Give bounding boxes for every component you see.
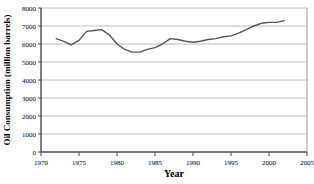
gridlines xyxy=(41,8,307,134)
y-tick-label: 0 xyxy=(33,149,37,157)
x-tick-label: 1990 xyxy=(186,159,201,167)
plot-area: 010002000300040005000600070008000 197019… xyxy=(0,0,314,184)
y-tick-label: 4000 xyxy=(22,77,37,85)
y-tick-label: 5000 xyxy=(22,59,37,67)
x-tick-label: 2000 xyxy=(262,159,277,167)
data-series-line xyxy=(56,21,284,52)
x-tick-label: 2005 xyxy=(300,159,314,167)
x-tick-label: 1980 xyxy=(110,159,125,167)
y-tick-label: 2000 xyxy=(22,113,37,121)
y-tick-label: 7000 xyxy=(22,23,37,31)
x-axis-ticks: 19701975198019851990199520002005 xyxy=(34,152,314,167)
x-tick-label: 1985 xyxy=(148,159,163,167)
y-tick-label: 6000 xyxy=(22,41,37,49)
y-tick-label: 1000 xyxy=(22,131,37,139)
y-axis-ticks: 010002000300040005000600070008000 xyxy=(22,5,41,157)
x-axis-title: Year xyxy=(41,168,307,179)
x-tick-label: 1995 xyxy=(224,159,239,167)
x-tick-label: 1970 xyxy=(34,159,49,167)
y-tick-label: 8000 xyxy=(22,5,37,13)
x-tick-label: 1975 xyxy=(72,159,87,167)
y-tick-label: 3000 xyxy=(22,95,37,103)
oil-consumption-chart: Oil Consumption (million barrels) 010002… xyxy=(0,0,314,184)
